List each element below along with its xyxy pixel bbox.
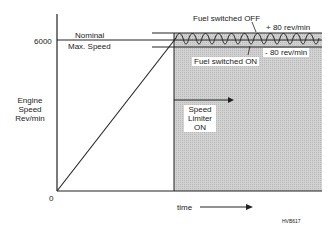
time-arrow-head [246,204,253,210]
fuel-on-label: Fuel switched ON [192,57,259,66]
acceleration-ramp [57,38,176,191]
fuel-off-leader [252,22,256,32]
fuel-off-label: Fuel switched OFF [193,14,260,23]
y-axis-label-line2: Speed [12,105,48,114]
max-speed-label: Max. Speed [68,42,111,51]
nominal-label: Nominal [75,31,104,40]
plus-80-label: + 80 rev/min [266,23,310,32]
limiter-label-line3: ON [186,123,214,132]
tick-6000: 6000 [34,37,52,46]
limiter-label-line1: Speed [186,105,214,114]
y-axis-label-line3: Rev/min [12,114,48,123]
y-axis-label-line1: Engine [12,96,48,105]
speed-limiter-on-label: Speed Limiter ON [184,105,216,132]
minus-80-label: - 80 rev/min [263,48,309,57]
tick-0: 0 [49,194,53,203]
limiter-label-line2: Limiter [186,114,214,123]
y-axis-label: Engine Speed Rev/min [12,96,48,123]
x-axis-label: time [177,203,192,212]
figure-code: HVB617 [282,218,301,224]
